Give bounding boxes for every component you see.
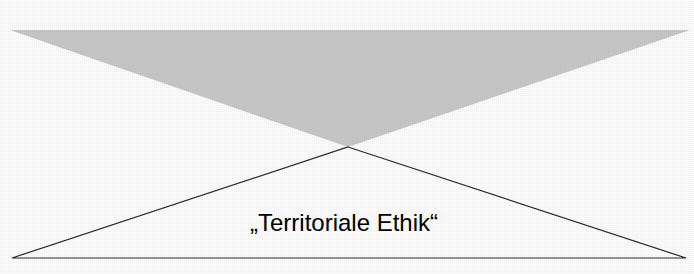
bowtie-diagram: „Territoriale Ethik“ [0, 0, 694, 274]
diagram-label-territoriale-ethik: „Territoriale Ethik“ [250, 209, 438, 236]
figure-canvas: „Territoriale Ethik“ [0, 0, 694, 274]
